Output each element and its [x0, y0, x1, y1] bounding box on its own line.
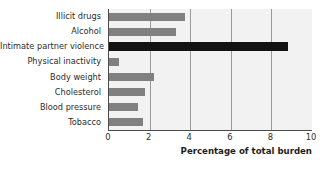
bar-row	[109, 54, 312, 69]
category-axis-labels: Illicit drugs Alcohol Intimate partner v…	[0, 9, 104, 130]
bar-chart-figure: Illicit drugs Alcohol Intimate partner v…	[0, 0, 322, 169]
bar-blood-pressure	[109, 103, 138, 111]
category-label: Body weight	[0, 70, 104, 85]
bar-intimate-partner-violence	[109, 42, 288, 51]
value-axis-title: Percentage of total burden	[0, 146, 312, 156]
category-label: Alcohol	[0, 24, 104, 39]
x-tick-label: 10	[306, 132, 317, 142]
bar-row	[109, 85, 312, 100]
bar-row	[109, 100, 312, 115]
x-tick-label: 0	[105, 132, 110, 142]
bar-body-weight	[109, 73, 154, 81]
bar-alcohol	[109, 28, 176, 36]
bar-illicit-drugs	[109, 13, 185, 21]
category-label: Intimate partner violence	[0, 39, 104, 54]
category-label: Cholesterol	[0, 85, 104, 100]
bar-row	[109, 39, 312, 54]
bar-row	[109, 9, 312, 24]
bar-row	[109, 70, 312, 85]
x-tick-label: 6	[227, 132, 232, 142]
bar-tobacco	[109, 118, 143, 126]
category-label: Physical inactivity	[0, 54, 104, 69]
value-axis-ticks: 0 2 4 6 8 10	[108, 132, 311, 144]
bar-series	[109, 9, 312, 130]
plot-area	[108, 9, 312, 131]
bar-row	[109, 115, 312, 130]
x-tick-label: 2	[146, 132, 151, 142]
x-tick-label: 8	[268, 132, 273, 142]
x-tick-label: 4	[187, 132, 192, 142]
category-label: Tobacco	[0, 115, 104, 130]
category-label: Illicit drugs	[0, 9, 104, 24]
bar-row	[109, 24, 312, 39]
category-label: Blood pressure	[0, 100, 104, 115]
bar-cholesterol	[109, 88, 145, 96]
bar-physical-inactivity	[109, 58, 119, 66]
